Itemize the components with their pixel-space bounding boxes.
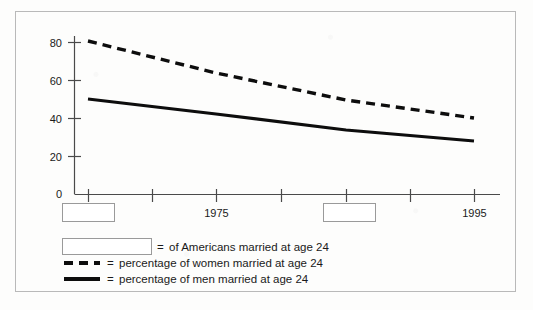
series-men-solid (88, 99, 474, 141)
y-tick-label-80: 80 (50, 37, 62, 49)
axes-group (75, 36, 501, 195)
blanked-xtick-label-box-1 (63, 204, 115, 222)
men-line (88, 99, 474, 141)
legend-label-blank: of Americans married at age 24 (169, 241, 329, 253)
legend-swatch-blank-box (63, 239, 152, 255)
legend-equals-blank: = (157, 241, 164, 253)
y-tick-label-20: 20 (50, 151, 62, 163)
y-axis-ticks: 80 60 40 20 0 (50, 37, 81, 201)
legend-label-men: percentage of men married at age 24 (119, 273, 309, 285)
legend-equals-women: = (107, 257, 114, 269)
x-tick-label-1975: 1975 (204, 207, 228, 219)
x-tick-label-1995: 1995 (462, 207, 486, 219)
blanked-xtick-label-box-2 (324, 204, 376, 222)
x-axis-ticks (89, 189, 475, 202)
y-tick-label-40: 40 (50, 113, 62, 125)
legend-entry-blank: = of Americans married at age 24 (63, 239, 330, 255)
legend: = of Americans married at age 24 = perce… (63, 239, 330, 286)
y-tick-label-0: 0 (56, 188, 62, 200)
legend-label-women: percentage of women married at age 24 (119, 257, 324, 269)
legend-entry-men: = percentage of men married at age 24 (64, 273, 309, 285)
y-tick-label-60: 60 (50, 75, 62, 87)
line-chart: 80 60 40 20 0 1975 1995 (0, 0, 533, 310)
legend-entry-women: = percentage of women married at age 24 (64, 257, 324, 269)
scanned-page-background: 80 60 40 20 0 1975 1995 (0, 0, 533, 310)
legend-equals-men: = (107, 273, 114, 285)
